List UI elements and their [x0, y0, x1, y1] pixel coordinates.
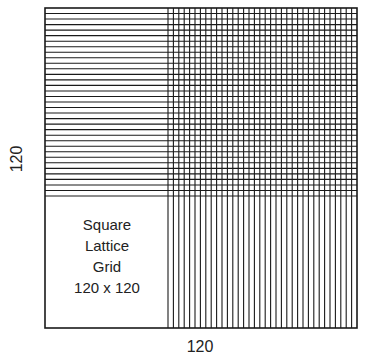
caption-line-1: Square: [46, 214, 168, 235]
bottom-axis-label: 120: [0, 338, 367, 356]
caption-line-4: 120 x 120: [46, 277, 168, 298]
grid-caption: Square Lattice Grid 120 x 120: [46, 214, 168, 298]
caption-line-2: Lattice: [46, 235, 168, 256]
caption-line-3: Grid: [46, 256, 168, 277]
horizontal-grid-lines: [45, 14, 357, 196]
left-axis-label: 120: [8, 139, 26, 179]
vertical-grid-lines: [168, 8, 352, 328]
